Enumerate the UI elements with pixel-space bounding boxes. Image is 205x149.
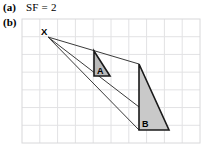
figure-page: (a) SF = 2 (b) A B X	[0, 0, 205, 149]
shape-a-label: A	[97, 66, 104, 76]
shape-b-label: B	[142, 119, 149, 129]
enlargement-diagram: A B X	[0, 0, 205, 149]
centre-of-enlargement-label: X	[41, 26, 48, 37]
